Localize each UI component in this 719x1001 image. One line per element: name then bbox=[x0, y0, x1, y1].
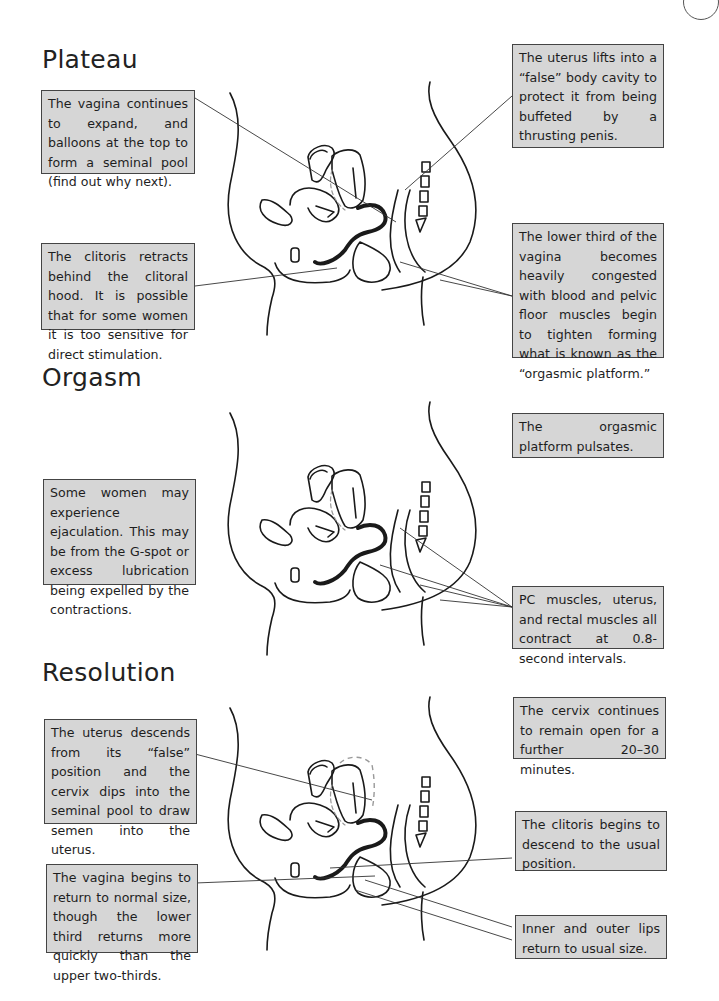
callout-cervix-open: The cervix continues to remain open for … bbox=[513, 697, 666, 759]
callout-vagina-returns: The vagina begins to return to normal si… bbox=[46, 864, 198, 953]
callout-contractions: PC muscles, uterus, and rectal muscles a… bbox=[512, 586, 664, 649]
leader-lines bbox=[195, 96, 512, 940]
resolution-illustration bbox=[228, 697, 476, 950]
callout-clitoris-retracts: The clitoris retracts behind the clitora… bbox=[41, 243, 195, 330]
callout-vagina-expands: The vagina continues to expand, and ball… bbox=[41, 90, 195, 174]
callout-orgasmic-platform: The lower third of the vagina becomes he… bbox=[512, 223, 664, 358]
callout-platform-pulsates: The orgasmic platform pulsates. bbox=[512, 413, 664, 458]
callout-lips-return: Inner and outer lips return to usual siz… bbox=[515, 915, 667, 959]
callout-uterus-descends: The uterus descends from its “false” pos… bbox=[44, 719, 197, 824]
callout-uterus-lifts: The uterus lifts into a “false” body cav… bbox=[512, 44, 664, 148]
section-title-plateau: Plateau bbox=[42, 45, 138, 74]
callout-ejaculation: Some women may experience ejaculation. T… bbox=[43, 479, 196, 585]
orgasm-illustration bbox=[228, 402, 476, 655]
plateau-illustration bbox=[228, 82, 476, 335]
section-title-resolution: Resolution bbox=[42, 658, 176, 687]
section-title-orgasm: Orgasm bbox=[42, 363, 142, 392]
callout-clitoris-descends: The clitoris begins to descend to the us… bbox=[515, 811, 667, 871]
